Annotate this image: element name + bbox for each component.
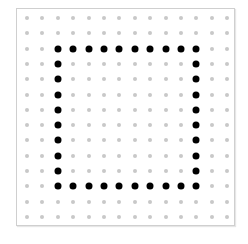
outline-dot (162, 183, 169, 190)
grid-dot (117, 123, 121, 127)
outline-dot (193, 122, 200, 129)
outline-dot (54, 106, 61, 113)
grid-dot (225, 62, 229, 66)
grid-dot (133, 215, 137, 219)
grid-dot (164, 138, 168, 142)
grid-dot (71, 200, 75, 204)
grid-dot (210, 93, 214, 97)
grid-dot (117, 138, 121, 142)
grid-dot (71, 123, 75, 127)
grid-dot (56, 200, 60, 204)
grid-dot (87, 16, 91, 20)
grid-dot (117, 200, 121, 204)
grid-dot (210, 184, 214, 188)
grid-dot (102, 77, 106, 81)
outline-dot (131, 183, 138, 190)
outline-dot (54, 168, 61, 175)
grid-dot (133, 123, 137, 127)
grid-dot (25, 138, 29, 142)
grid-dot (179, 200, 183, 204)
grid-dot (40, 31, 44, 35)
grid-dot (40, 215, 44, 219)
grid-dot (133, 62, 137, 66)
grid-dot (225, 77, 229, 81)
outline-dot (54, 183, 61, 190)
grid-dot (164, 93, 168, 97)
grid-dot (225, 138, 229, 142)
grid-dot (148, 62, 152, 66)
grid-dot (148, 123, 152, 127)
grid-dot (25, 16, 29, 20)
grid-dot (40, 77, 44, 81)
outline-dot (193, 137, 200, 144)
grid-dot (56, 215, 60, 219)
grid-dot (102, 16, 106, 20)
grid-dot (71, 31, 75, 35)
grid-dot (102, 138, 106, 142)
grid-dot (25, 47, 29, 51)
grid-dot (25, 154, 29, 158)
outline-dot (70, 45, 77, 52)
grid-dot (148, 154, 152, 158)
grid-dot (25, 184, 29, 188)
grid-dot (164, 154, 168, 158)
grid-dot (225, 31, 229, 35)
outline-dot (54, 60, 61, 67)
grid-dot (225, 47, 229, 51)
grid-dot (210, 16, 214, 20)
grid-dot (25, 93, 29, 97)
outline-dot (193, 183, 200, 190)
grid-dot (179, 77, 183, 81)
outline-dot (193, 60, 200, 67)
grid-dot (148, 16, 152, 20)
grid-dot (71, 169, 75, 173)
grid-dot (225, 200, 229, 204)
grid-dot (40, 138, 44, 142)
grid-dot (225, 184, 229, 188)
grid-dot (71, 77, 75, 81)
outline-dot (193, 152, 200, 159)
outline-dot (101, 45, 108, 52)
grid-dot (133, 93, 137, 97)
grid-dot (40, 108, 44, 112)
grid-dot (210, 77, 214, 81)
grid-dot (87, 77, 91, 81)
grid-dot (117, 93, 121, 97)
grid-dot (164, 31, 168, 35)
grid-dot (56, 31, 60, 35)
outline-dot (193, 76, 200, 83)
grid-dot (102, 93, 106, 97)
grid-dot (25, 123, 29, 127)
outline-dot (178, 183, 185, 190)
grid-dot (71, 154, 75, 158)
grid-dot (40, 123, 44, 127)
grid-dot (148, 169, 152, 173)
outline-dot (131, 45, 138, 52)
grid-dot (148, 138, 152, 142)
outline-dot (162, 45, 169, 52)
grid-dot (133, 77, 137, 81)
grid-dot (87, 169, 91, 173)
outline-dot (85, 183, 92, 190)
grid-dot (179, 16, 183, 20)
grid-dot (225, 215, 229, 219)
grid-dot (164, 169, 168, 173)
grid-dot (87, 62, 91, 66)
outline-dot (101, 183, 108, 190)
grid-dot (148, 200, 152, 204)
grid-dot (87, 93, 91, 97)
grid-dot (148, 31, 152, 35)
grid-dot (148, 77, 152, 81)
grid-dot (117, 169, 121, 173)
grid-dot (71, 138, 75, 142)
grid-dot (179, 93, 183, 97)
outline-dot (70, 183, 77, 190)
outline-dot (116, 45, 123, 52)
outline-dot (193, 91, 200, 98)
grid-dot (40, 16, 44, 20)
grid-dot (87, 138, 91, 142)
grid-dot (133, 138, 137, 142)
grid-dot (179, 138, 183, 142)
grid-dot (179, 123, 183, 127)
grid-dot (164, 62, 168, 66)
